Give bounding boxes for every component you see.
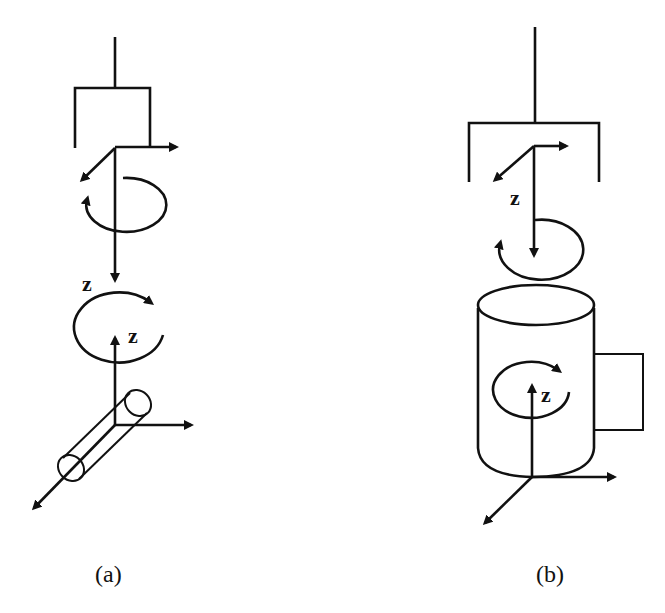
panel-b: [469, 27, 643, 523]
panel-a: [34, 37, 191, 508]
axis-label-z: z: [510, 185, 520, 210]
gripper-frame-b: [495, 146, 566, 255]
axis-label-z: z: [82, 271, 92, 296]
rotation-arrow-icon: [74, 292, 163, 362]
gripper-frame-a: [82, 147, 176, 280]
rotation-arrow-icon: [499, 220, 583, 280]
object-frame-a: [34, 338, 191, 508]
rotation-arrow-icon: [86, 178, 166, 232]
cylinder-object: [478, 285, 643, 477]
gripper-a: [75, 37, 150, 148]
diagram-canvas: z z (a) z z (b): [0, 0, 665, 613]
axis-label-z: z: [541, 382, 551, 407]
axis-label-z: z: [128, 323, 138, 348]
mug-handle: [594, 354, 643, 430]
panel-caption-b: (b): [536, 561, 564, 587]
panel-caption-a: (a): [95, 561, 122, 587]
